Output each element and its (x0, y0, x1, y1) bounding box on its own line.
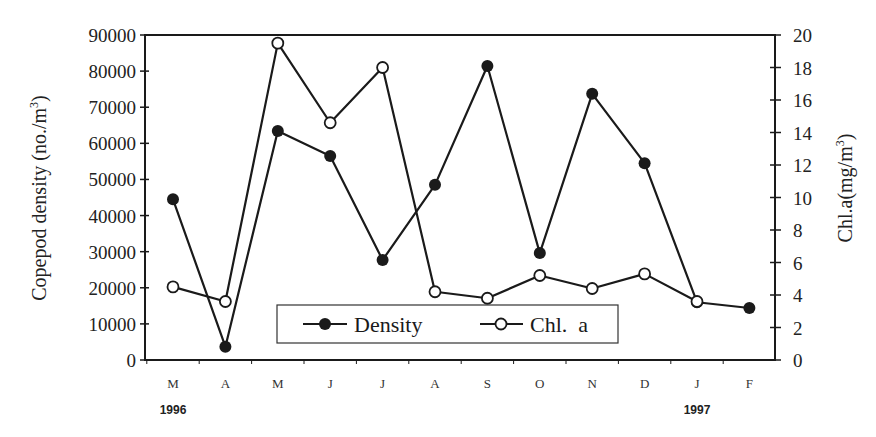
right-tick-label: 6 (793, 253, 803, 274)
right-axis-title: Chl.a(mg/m3) (833, 134, 857, 243)
left-axis-title: Copepod density (no./m3) (27, 95, 51, 300)
legend: Density Chl. a (277, 305, 618, 343)
x-year-label: 1996 (160, 403, 187, 417)
left-tick-label: 40000 (89, 206, 137, 227)
legend-chl-label: Chl. a (530, 312, 588, 337)
x-month-label: M (167, 376, 179, 391)
right-tick-label: 8 (793, 220, 803, 241)
data-point-filled-icon (219, 341, 231, 353)
data-point-filled-icon (639, 157, 651, 169)
x-month-label: N (588, 376, 598, 391)
right-tick-label: 2 (793, 318, 803, 339)
x-year-label: 1997 (684, 403, 711, 417)
left-axis-ticks: 0100002000030000400005000060000700008000… (89, 25, 150, 371)
right-tick-label: 12 (793, 155, 812, 176)
right-tick-label: 20 (793, 25, 812, 46)
x-month-label: J (380, 376, 385, 391)
right-tick-label: 18 (793, 58, 812, 79)
x-month-label: A (430, 376, 440, 391)
legend-density-marker-icon (319, 318, 331, 330)
data-point-filled-icon (534, 247, 546, 259)
data-point-filled-icon (272, 125, 284, 137)
right-tick-label: 10 (793, 188, 812, 209)
data-point-open-icon (534, 270, 545, 281)
data-point-open-icon (168, 281, 179, 292)
data-point-open-icon (377, 62, 388, 73)
x-month-label: M (272, 376, 284, 391)
x-month-label: D (640, 376, 649, 391)
right-tick-label: 0 (793, 350, 803, 371)
right-axis-ticks: 02468101214161820 (770, 25, 813, 371)
x-month-label: A (221, 376, 231, 391)
data-point-open-icon (220, 296, 231, 307)
series-line (173, 43, 697, 301)
data-point-filled-icon (743, 302, 755, 314)
data-point-open-icon (430, 286, 441, 297)
x-axis-ticks: MAMJJASONDJF19961997 (147, 360, 753, 417)
chl-a-series (168, 38, 703, 307)
x-month-label: F (746, 376, 753, 391)
data-point-filled-icon (481, 60, 493, 72)
legend-density-label: Density (354, 312, 422, 337)
x-month-label: O (535, 376, 544, 391)
data-point-open-icon (639, 268, 650, 279)
data-point-open-icon (482, 293, 493, 304)
x-month-label: J (328, 376, 333, 391)
left-tick-label: 0 (127, 350, 137, 371)
dual-axis-line-chart: 0100002000030000400005000060000700008000… (0, 0, 876, 437)
left-tick-label: 20000 (89, 278, 137, 299)
right-tick-label: 4 (793, 285, 803, 306)
data-point-filled-icon (429, 179, 441, 191)
data-point-open-icon (325, 117, 336, 128)
data-point-filled-icon (324, 150, 336, 162)
data-point-filled-icon (167, 193, 179, 205)
left-tick-label: 80000 (89, 61, 137, 82)
right-tick-label: 16 (793, 90, 812, 111)
left-tick-label: 30000 (89, 242, 137, 263)
data-point-open-icon (692, 296, 703, 307)
left-tick-label: 90000 (89, 25, 137, 46)
x-month-label: S (484, 376, 491, 391)
left-tick-label: 70000 (89, 97, 137, 118)
data-point-filled-icon (377, 254, 389, 266)
data-point-open-icon (587, 283, 598, 294)
data-point-filled-icon (586, 88, 598, 100)
legend-chl-marker-icon (496, 319, 507, 330)
left-tick-label: 10000 (89, 314, 137, 335)
left-tick-label: 60000 (89, 133, 137, 154)
x-month-label: J (694, 376, 699, 391)
left-tick-label: 50000 (89, 169, 137, 190)
data-point-open-icon (272, 38, 283, 49)
right-tick-label: 14 (793, 123, 813, 144)
